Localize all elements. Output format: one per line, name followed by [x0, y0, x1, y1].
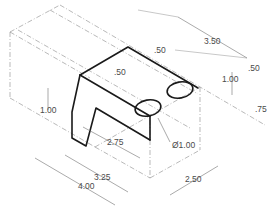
dim-slot-length: 3.25 — [94, 172, 111, 182]
dim-top-depth: 3.50 — [204, 36, 221, 46]
dim-right-offset: .50 — [248, 63, 260, 73]
dim-slot-inner: 2.75 — [107, 137, 124, 147]
drawing-svg: 3.50 .50 .50 .50 1.00 .75 1.00 2.75 Ø1.0… — [0, 0, 271, 210]
dim-hole-diameter: Ø1.00 — [172, 140, 195, 150]
dim-right-height: 1.00 — [222, 74, 239, 84]
dim-left-height: 1.00 — [40, 105, 57, 115]
dim-top-edge-offset: .50 — [154, 45, 166, 55]
dim-hole-offset: .75 — [255, 104, 267, 114]
hole-back — [166, 80, 194, 100]
isometric-drawing: 3.50 .50 .50 .50 1.00 .75 1.00 2.75 Ø1.0… — [0, 0, 271, 210]
dim-width: 2.50 — [185, 174, 202, 184]
dim-wall-thickness: .50 — [114, 67, 126, 77]
dim-overall-length: 4.00 — [78, 181, 95, 191]
